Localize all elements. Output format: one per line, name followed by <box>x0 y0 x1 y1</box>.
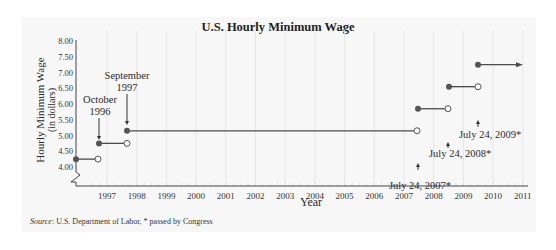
y-axis-label-main: Hourly Minimum Wage <box>34 50 46 170</box>
x-tick-label: 2001 <box>217 191 235 201</box>
arrow-down-icon <box>125 121 129 125</box>
x-tick-label: 1999 <box>157 191 176 201</box>
open-point <box>445 106 451 112</box>
y-tick-label: 4.50 <box>58 146 73 156</box>
closed-point <box>96 140 102 146</box>
source-text: : U.S. Department of Labor, * passed by … <box>52 217 213 226</box>
x-tick-label: 2009 <box>454 191 473 201</box>
arrow-down-icon <box>97 136 101 140</box>
x-tick-label: 2000 <box>187 191 206 201</box>
open-point <box>414 128 420 134</box>
y-tick-label: 7.00 <box>58 68 73 78</box>
y-tick-label: 7.50 <box>58 52 73 62</box>
annotation-september-1997: 1997 <box>117 82 138 93</box>
y-tick-label: 5.50 <box>58 115 73 125</box>
open-point <box>124 140 130 146</box>
annotation-july-2008: July 24, 2008* <box>429 148 491 159</box>
y-axis-label: Hourly Minimum Wage (in dollars) <box>34 50 58 170</box>
source-note: Source: U.S. Department of Labor, * pass… <box>30 217 213 226</box>
y-tick-label: 4.00 <box>58 162 73 172</box>
y-axis-label-sub: (in dollars) <box>46 50 58 170</box>
x-tick-label: 2006 <box>365 191 384 201</box>
closed-point <box>446 84 452 90</box>
arrow-up-icon <box>416 163 420 167</box>
open-point <box>95 156 101 162</box>
open-point <box>475 84 481 90</box>
x-tick-label: 2010 <box>484 191 503 201</box>
x-tick-label: 2002 <box>247 191 265 201</box>
x-tick-label: 2008 <box>425 191 444 201</box>
annotation-october-1996: 1996 <box>90 106 111 117</box>
x-axis-label: Year <box>300 195 322 210</box>
x-tick-label: 2005 <box>336 191 355 201</box>
x-tick-label: 2003 <box>276 191 295 201</box>
annotation-july-2009: July 24, 2009* <box>459 129 521 140</box>
x-tick-label: 1997 <box>98 191 117 201</box>
arrow-right-icon <box>516 62 523 67</box>
y-tick-label: 8.00 <box>58 36 73 46</box>
closed-point <box>475 62 481 68</box>
closed-point <box>124 128 130 134</box>
annotation-july-2007: July 24, 2007* <box>389 180 451 191</box>
annotation-october-1996: October <box>83 94 117 105</box>
axis-break-icon <box>71 172 80 186</box>
annotation-september-1997: September <box>105 70 150 81</box>
x-tick-label: 1998 <box>128 191 147 201</box>
y-tick-label: 6.50 <box>58 83 73 93</box>
x-tick-label: 2011 <box>514 191 532 201</box>
source-label: Source <box>30 217 52 226</box>
y-tick-label: 6.00 <box>58 99 73 109</box>
plot-area: 4.004.505.005.506.006.507.007.508.001997… <box>0 0 556 250</box>
arrow-up-icon <box>476 120 480 124</box>
y-tick-label: 5.00 <box>58 131 73 141</box>
arrow-up-icon <box>446 142 450 146</box>
closed-point <box>73 156 79 162</box>
x-tick-label: 2007 <box>395 191 414 201</box>
closed-point <box>415 106 421 112</box>
